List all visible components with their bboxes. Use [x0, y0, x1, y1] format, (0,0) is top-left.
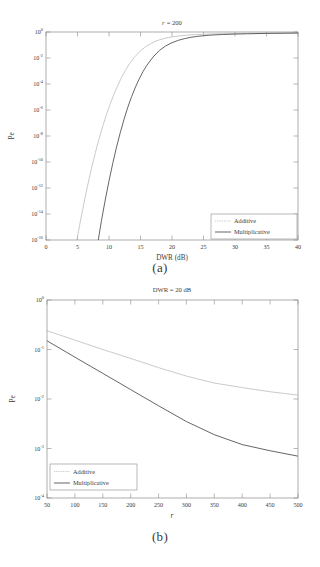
chart-a-xtick-label: 5 [76, 244, 79, 250]
chart-a-xtick-label: 40 [295, 244, 301, 250]
chart-b-ytick-label: 10-2 [34, 394, 44, 402]
chart-a-ytick-label: 10-8 [33, 131, 43, 139]
chart-b-xtick-label: 350 [210, 502, 219, 508]
chart-b-xtick-label: 200 [126, 502, 135, 508]
chart-a-xtick-label: 10 [106, 244, 112, 250]
chart-a-ytick-labels: 100 10-2 10-4 10-6 10-8 10-10 10-12 10-1… [31, 27, 44, 243]
chart-a-svg: r= 200 [0, 0, 320, 262]
chart-a-ytick-label: 10-6 [33, 105, 44, 113]
chart-a-legend-label-additive: Additive [234, 217, 256, 224]
chart-b-series-multiplicative [47, 341, 298, 456]
chart-b-ytick-label: 10-3 [34, 444, 44, 452]
chart-b-title: DWR = 20 dB [153, 286, 192, 293]
chart-a-xlabel: DWR (dB) [156, 254, 188, 262]
chart-b-xtick-label: 400 [238, 502, 247, 508]
chart-b-xtick-labels: 50 100 150 200 250 300 350 400 450 500 [44, 502, 303, 508]
chart-a-ytick-label: 10-4 [33, 79, 44, 87]
chart-a-ytick-label: 10-10 [31, 157, 43, 165]
chart-b-xlabel: r [171, 512, 174, 520]
chart-a-ytick-label: 10-14 [31, 209, 44, 217]
chart-a-ytick-label: 10-2 [33, 53, 43, 61]
chart-a-title-variable: r [162, 19, 165, 26]
chart-a-xtick-label: 25 [200, 244, 206, 250]
chart-b-svg: DWR = 20 dB [0, 278, 320, 533]
figure-a: r= 200 [0, 0, 320, 290]
chart-a-ytick-label: 10-12 [31, 183, 43, 191]
chart-a-ylabel: Pe [8, 132, 16, 139]
chart-b-ytick-label: 10-1 [34, 345, 44, 353]
chart-b-legend-label-multiplicative: Multiplicative [73, 479, 109, 486]
chart-b-xtick-label: 50 [44, 502, 50, 508]
chart-a-xtick-label: 15 [137, 244, 143, 250]
chart-b-ytick-label: 10-4 [34, 493, 45, 501]
chart-b-ytick-label: 100 [36, 295, 44, 303]
chart-a-legend: Additive Multiplicative [211, 214, 297, 239]
chart-b-legend: Additive Multiplicative [50, 464, 137, 490]
chart-b-container: DWR = 20 dB [0, 278, 320, 533]
chart-a-xtick-label: 20 [169, 244, 175, 250]
chart-a-ytick-label: 100 [35, 27, 43, 35]
chart-a-xtick-label: 30 [232, 244, 238, 250]
figure-a-caption: (a) [0, 260, 320, 276]
chart-a-xticks [46, 32, 298, 240]
chart-a-container: r= 200 [0, 0, 320, 262]
chart-a-series-multiplicative [98, 33, 298, 240]
chart-b-ylabel: Pe [9, 395, 17, 402]
chart-a-title-value: = 200 [167, 19, 183, 26]
chart-a-ytick-label: 10-16 [31, 235, 44, 243]
chart-b-xtick-label: 300 [182, 502, 191, 508]
chart-a-title: r= 200 [162, 19, 183, 26]
figure-b: DWR = 20 dB [0, 278, 320, 567]
chart-a-yticks [46, 32, 298, 240]
chart-b-xtick-label: 450 [266, 502, 275, 508]
chart-b-legend-label-additive: Additive [73, 468, 95, 475]
chart-a-xtick-labels: 0 5 10 15 20 25 30 35 40 [44, 244, 301, 250]
chart-a-xtick-label: 0 [44, 244, 47, 250]
chart-b-ytick-labels: 100 10-1 10-2 10-3 10-4 [34, 295, 45, 501]
chart-b-xtick-label: 500 [293, 502, 302, 508]
chart-a-legend-label-multiplicative: Multiplicative [234, 228, 270, 235]
chart-b-xtick-label: 250 [154, 502, 163, 508]
chart-b-xtick-label: 150 [98, 502, 107, 508]
chart-a-plot-frame [46, 32, 298, 240]
chart-b-xtick-label: 100 [70, 502, 79, 508]
chart-a-series-additive [77, 33, 298, 240]
chart-a-xtick-label: 35 [263, 244, 269, 250]
